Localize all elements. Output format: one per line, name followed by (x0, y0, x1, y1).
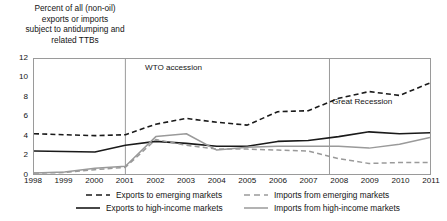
y-tick-label: 6 (2, 112, 28, 120)
y-tick-label: 12 (2, 54, 28, 62)
legend-item-exports-high-income: Exports to high-income markets (75, 202, 223, 213)
legend-key-imports-emerging-icon (243, 190, 269, 200)
legend-item-imports-emerging: Imports from emerging markets (243, 189, 389, 200)
y-axis-title-line-2: exports or imports (0, 14, 150, 25)
series-line-imports-high-income (34, 133, 430, 172)
y-tick-label: 10 (2, 73, 28, 81)
x-tick-label: 2008 (322, 176, 356, 185)
legend-label-imports-emerging: Imports from emerging markets (274, 190, 389, 200)
x-tick-label: 2005 (230, 176, 264, 185)
x-tick-label: 2006 (261, 176, 295, 185)
legend-item-exports-emerging: Exports to emerging markets (85, 189, 222, 200)
legend-key-exports-emerging-icon (85, 190, 111, 200)
x-tick-label: 2007 (292, 176, 326, 185)
chart-legend: Exports to emerging markets Exports to h… (0, 189, 447, 219)
x-tick-label: 1998 (16, 176, 50, 185)
legend-label-exports-emerging: Exports to emerging markets (116, 190, 222, 200)
y-tick-label: 4 (2, 132, 28, 140)
series-line-exports-emerging (34, 82, 430, 135)
y-axis-title-line-4: related TTBs (0, 35, 150, 46)
legend-key-imports-high-income-icon (243, 203, 269, 213)
plot-area (33, 58, 431, 175)
legend-label-imports-high-income: Imports from high-income markets (274, 203, 400, 213)
annotation-great-recession: Great Recession (332, 97, 392, 106)
x-tick-label: 2000 (77, 176, 111, 185)
x-tick-label: 1999 (47, 176, 81, 185)
x-tick-label: 2004 (200, 176, 234, 185)
y-tick-label: 2 (2, 151, 28, 159)
chart-canvas (34, 59, 430, 174)
y-axis-title-line-1: Percent of all (non-oil) (0, 3, 150, 14)
x-tick-label: 2010 (383, 176, 417, 185)
legend-key-exports-high-income-icon (75, 203, 101, 213)
chart-figure: Percent of all (non-oil) exports or impo… (0, 0, 447, 221)
x-tick-label: 2003 (169, 176, 203, 185)
y-tick-label: 8 (2, 93, 28, 101)
legend-label-exports-high-income: Exports to high-income markets (106, 203, 223, 213)
x-tick-label: 2009 (353, 176, 387, 185)
legend-item-imports-high-income: Imports from high-income markets (243, 202, 400, 213)
y-axis-title-line-3: subject to antidumping and (0, 24, 150, 35)
y-axis-title: Percent of all (non-oil) exports or impo… (0, 3, 150, 45)
x-tick-label: 2001 (108, 176, 142, 185)
annotation-wto-accession: WTO accession (145, 63, 202, 72)
x-tick-label: 2011 (414, 176, 447, 185)
x-tick-label: 2002 (139, 176, 173, 185)
